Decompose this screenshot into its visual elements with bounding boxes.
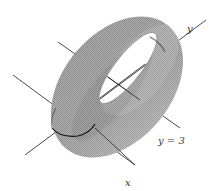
x-axis-label: x xyxy=(125,177,131,188)
line-label: y = 3 xyxy=(158,135,185,146)
y-axis-label: y xyxy=(187,23,193,34)
torus-diagram: y y = 3 x xyxy=(0,0,223,191)
line-label-text: y = 3 xyxy=(158,135,185,146)
